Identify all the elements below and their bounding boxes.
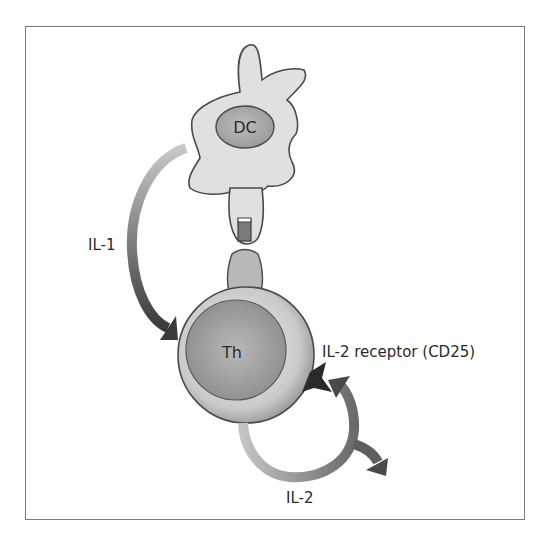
il2-receptor-label: IL-2 receptor (CD25) xyxy=(322,343,475,361)
il2-label: IL-2 xyxy=(286,489,313,507)
diagram-canvas: DC Th IL-1 IL-2 receptor (CD25) IL-2 xyxy=(0,0,544,542)
dc-label: DC xyxy=(233,118,257,137)
il1-label: IL-1 xyxy=(88,236,115,254)
il1-arrow xyxy=(132,148,186,340)
t-helper-cell xyxy=(178,287,314,423)
th-label: Th xyxy=(221,343,242,362)
dendritic-cell xyxy=(189,45,306,244)
mhc-receptor-icon xyxy=(238,220,251,241)
